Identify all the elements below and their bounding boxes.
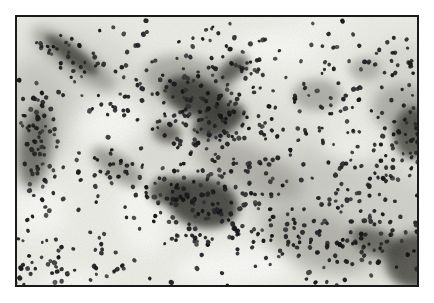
micrograph-svg (17, 17, 417, 285)
page (0, 0, 434, 303)
photo-frame (15, 15, 419, 287)
